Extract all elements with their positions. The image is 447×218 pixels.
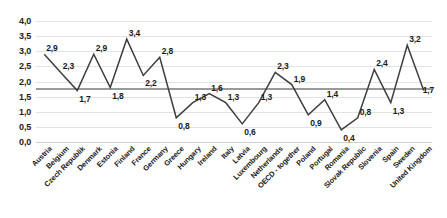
data-label: 1,7 xyxy=(79,95,90,104)
data-label: 1,8 xyxy=(112,92,123,101)
data-label: 2,9 xyxy=(46,44,57,53)
y-tick-label: 3,0 xyxy=(19,47,31,56)
plot-area xyxy=(36,21,432,142)
y-tick-label: 4,0 xyxy=(19,17,31,26)
data-label: 3,4 xyxy=(129,29,140,38)
line-chart: 4,03,53,02,52,01,51,00,50,0 AustriaBelgi… xyxy=(0,0,447,218)
y-axis: 4,03,53,02,52,01,51,00,50,0 xyxy=(0,0,36,163)
gridline xyxy=(36,142,432,143)
data-label: 1,3 xyxy=(393,107,404,116)
data-label: 2,9 xyxy=(96,44,107,53)
data-label: 2,2 xyxy=(145,79,156,88)
x-axis: AustriaBelgiumCzech RepublikDenmarkEston… xyxy=(36,145,432,218)
data-label: 2,4 xyxy=(376,59,387,68)
data-label: 1,3 xyxy=(228,93,239,102)
y-tick-label: 1,0 xyxy=(19,107,31,116)
y-tick-label: 3,5 xyxy=(19,32,31,41)
series-line xyxy=(36,21,432,142)
data-label: 1,9 xyxy=(294,75,305,84)
y-tick-label: 2,5 xyxy=(19,62,31,71)
data-label: 1,3 xyxy=(261,93,272,102)
data-label: 1,3 xyxy=(195,93,206,102)
data-label: 2,3 xyxy=(63,62,74,71)
data-label: 3,2 xyxy=(409,35,420,44)
data-label: 1,6 xyxy=(211,84,222,93)
data-label: 2,8 xyxy=(162,47,173,56)
y-tick-label: 0,5 xyxy=(19,122,31,131)
data-label: 1,4 xyxy=(327,90,338,99)
y-tick-label: 0,0 xyxy=(19,138,31,147)
y-tick-label: 1,5 xyxy=(19,92,31,101)
data-label: 0,9 xyxy=(310,119,321,128)
data-label: 0,4 xyxy=(343,134,354,143)
data-label: 0,8 xyxy=(360,108,371,117)
data-label: 2,3 xyxy=(277,62,288,71)
data-label: 0,8 xyxy=(178,122,189,131)
data-label: 1,7 xyxy=(423,86,434,95)
data-label: 0,6 xyxy=(244,128,255,137)
y-tick-label: 2,0 xyxy=(19,77,31,86)
